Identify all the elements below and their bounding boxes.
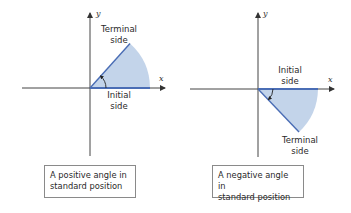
positive-angle-wedge <box>90 44 150 89</box>
negative-angle-caption: A negative angle in standard position <box>212 165 304 198</box>
terminal-side-label: Terminal side <box>97 24 141 45</box>
y-axis-label: y <box>96 9 101 18</box>
positive-angle-caption: A positive angle in standard position <box>44 165 136 198</box>
y-axis-label: y <box>263 9 268 18</box>
initial-side-label: Initial side <box>102 90 136 111</box>
terminal-side-label: Terminal side <box>278 135 322 156</box>
initial-side-label: Initial side <box>273 65 307 86</box>
negative-angle-wedge <box>258 89 318 132</box>
x-axis-label: x <box>159 74 164 83</box>
positive-angle-diagram <box>22 13 165 156</box>
x-axis-label: x <box>328 75 333 84</box>
